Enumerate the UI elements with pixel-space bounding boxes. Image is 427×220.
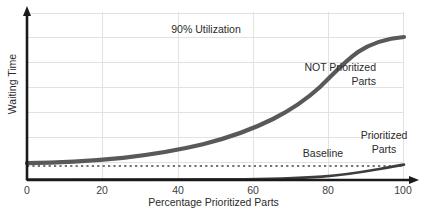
gridline-vertical bbox=[253, 12, 254, 180]
annotation-utilization: 90% Utilization bbox=[151, 22, 261, 36]
annotation-prioritized-parts: Prioritized Parts bbox=[345, 128, 423, 156]
annotation-baseline: Baseline bbox=[292, 146, 354, 160]
gridline-horizontal bbox=[27, 13, 404, 14]
gridline-horizontal bbox=[27, 112, 404, 113]
chart-container: 0 20 40 60 80 100 Percentage Prioritized… bbox=[0, 0, 427, 220]
annotation-not-prioritized-parts: NOT Prioritized Parts bbox=[276, 60, 376, 88]
gridline-vertical bbox=[102, 12, 103, 180]
gridline-horizontal bbox=[27, 37, 404, 38]
y-axis-title: Waiting Time bbox=[6, 39, 18, 129]
gridline-horizontal bbox=[27, 162, 404, 163]
gridline-vertical bbox=[178, 12, 179, 180]
x-axis-title: Percentage Prioritized Parts bbox=[0, 196, 427, 208]
x-axis-arrow-icon bbox=[409, 176, 419, 184]
